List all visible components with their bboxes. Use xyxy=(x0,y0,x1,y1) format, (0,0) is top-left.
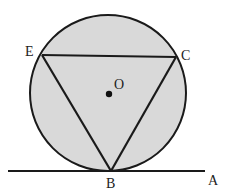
label-o: O xyxy=(114,77,124,92)
label-e: E xyxy=(25,44,34,59)
center-point-o xyxy=(106,91,112,97)
label-a: A xyxy=(208,173,219,188)
geometry-diagram: E C O B A xyxy=(0,0,225,194)
diagram-canvas: E C O B A xyxy=(0,0,225,194)
label-b: B xyxy=(106,176,115,191)
label-c: C xyxy=(181,48,190,63)
